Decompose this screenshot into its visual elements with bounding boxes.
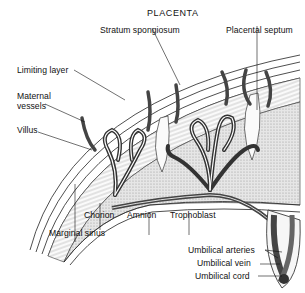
label-umbilical-vein: Umbilical vein xyxy=(197,258,251,268)
label-umbilical-arteries: Umbilical arteries xyxy=(188,245,255,255)
label-placental-septum: Placental septum xyxy=(226,25,293,35)
label-maternal-vessels-line2: vessels xyxy=(17,101,46,111)
label-trophoblast: Trophoblast xyxy=(170,210,216,220)
label-umbilical-cord: Umbilical cord xyxy=(195,271,250,281)
label-amnion: Amnion xyxy=(127,210,156,220)
label-villus: Villus xyxy=(17,125,38,135)
label-marginal-sinus: Marginal sinus xyxy=(49,228,105,238)
label-chorion: Chorion xyxy=(84,210,114,220)
label-limiting-layer: Limiting layer xyxy=(17,65,68,75)
label-stratum-spongiosum: Stratum spongiosum xyxy=(100,25,180,35)
diagram-title: PLACENTA xyxy=(147,8,199,18)
placenta-illustration xyxy=(0,0,305,293)
label-maternal-vessels-line1: Maternal xyxy=(17,91,51,101)
